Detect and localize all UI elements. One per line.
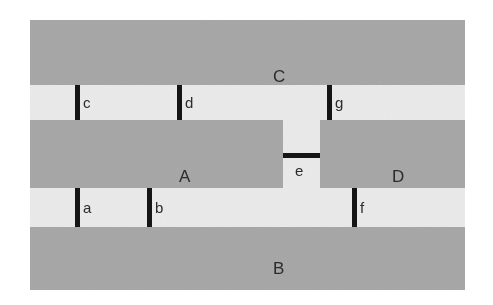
region-label-d: D	[392, 168, 404, 185]
region-label-b: B	[273, 260, 285, 277]
diagram-canvas: C A D B c d g e a b f	[30, 20, 465, 290]
gate-label-a: a	[83, 200, 91, 215]
gate-d-bar	[177, 85, 182, 120]
gate-f-bar	[352, 188, 357, 227]
region-label-a: A	[179, 168, 191, 185]
region-c-shape	[30, 20, 465, 85]
region-b-shape	[30, 227, 465, 290]
gate-label-c: c	[83, 95, 91, 110]
region-a-shape	[30, 120, 283, 188]
gate-label-e: e	[295, 163, 303, 178]
gate-a-bar	[75, 188, 80, 227]
gate-g-bar	[327, 85, 332, 120]
gate-e-bar	[283, 153, 320, 158]
gate-b-bar	[147, 188, 152, 227]
gate-label-b: b	[155, 200, 163, 215]
gate-label-f: f	[360, 200, 364, 215]
gate-label-g: g	[335, 95, 343, 110]
gate-c-bar	[75, 85, 80, 120]
region-label-c: C	[273, 68, 285, 85]
figure-root: C A D B c d g e a b f	[0, 0, 493, 305]
gate-label-d: d	[185, 95, 193, 110]
